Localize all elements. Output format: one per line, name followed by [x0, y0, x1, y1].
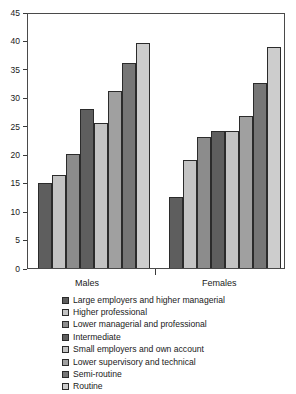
plot-area — [27, 13, 285, 269]
bar — [66, 154, 80, 268]
bar — [136, 43, 150, 268]
legend-label: Routine — [73, 382, 103, 391]
x-axis: Males Females — [27, 269, 285, 293]
legend-item: Small employers and own account — [62, 344, 287, 356]
bar — [225, 131, 239, 268]
y-axis-tick-label: 40 — [11, 37, 23, 46]
bar — [197, 137, 211, 268]
bar-chart: 051015202530354045 Males Females Large e… — [0, 0, 296, 394]
legend-label: Lower supervisory and technical — [73, 358, 196, 367]
y-axis-tick-label: 30 — [11, 94, 23, 103]
y-axis-tick-label: 20 — [11, 151, 23, 160]
legend-label: Semi-routine — [73, 370, 122, 379]
legend: Large employers and higher managerialHig… — [62, 294, 287, 393]
y-axis-tick-label: 35 — [11, 66, 23, 75]
bar — [211, 131, 225, 268]
legend-item: Large employers and higher managerial — [62, 294, 287, 306]
bar — [38, 183, 52, 268]
legend-label: Small employers and own account — [73, 345, 204, 354]
legend-swatch — [62, 346, 69, 353]
legend-item: Routine — [62, 381, 287, 393]
legend-swatch — [62, 383, 69, 390]
bar — [80, 109, 94, 268]
legend-item: Intermediate — [62, 331, 287, 343]
legend-label: Higher professional — [73, 308, 147, 317]
legend-swatch — [62, 371, 69, 378]
x-axis-label-females: Females — [202, 278, 237, 289]
bar — [239, 116, 253, 268]
legend-label: Intermediate — [73, 333, 121, 342]
bar — [52, 175, 66, 268]
legend-swatch — [62, 359, 69, 366]
bar-group-females — [169, 14, 281, 268]
y-axis-tick-label: 10 — [11, 208, 23, 217]
bar — [267, 47, 281, 268]
x-axis-label-males: Males — [75, 278, 99, 289]
y-axis-tick-label: 45 — [11, 9, 23, 18]
legend-item: Higher professional — [62, 306, 287, 318]
legend-label: Lower managerial and professional — [73, 320, 207, 329]
y-axis-tick-label: 0 — [15, 265, 23, 274]
bar — [183, 160, 197, 268]
bar — [94, 123, 108, 268]
x-axis-separator-tick — [155, 269, 156, 275]
legend-item: Semi-routine — [62, 368, 287, 380]
legend-swatch — [62, 334, 69, 341]
legend-swatch — [62, 297, 69, 304]
y-axis-tick-label: 25 — [11, 123, 23, 132]
legend-item: Lower supervisory and technical — [62, 356, 287, 368]
bar — [108, 91, 122, 268]
legend-label: Large employers and higher managerial — [73, 296, 225, 305]
y-axis-tick-label: 15 — [11, 179, 23, 188]
y-axis: 051015202530354045 — [0, 0, 27, 269]
bar-group-males — [38, 14, 150, 268]
bar — [122, 63, 136, 268]
legend-swatch — [62, 321, 69, 328]
bar — [169, 197, 183, 268]
bar — [253, 83, 267, 268]
legend-swatch — [62, 309, 69, 316]
y-axis-tick-label: 5 — [15, 236, 23, 245]
legend-item: Lower managerial and professional — [62, 319, 287, 331]
bars-surface — [28, 14, 284, 268]
